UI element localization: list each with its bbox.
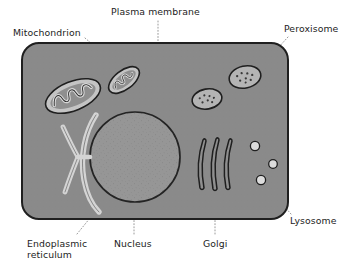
label-lysosome: Lysosome [290, 216, 336, 227]
lysosome-upper [250, 141, 259, 150]
label-endoplasmic-reticulum: Endoplasmic reticulum [27, 239, 87, 261]
label-peroxisome: Peroxisome [284, 24, 338, 35]
cell-diagram-figure: Mitochondrion Plasma membrane Peroxisome… [0, 0, 354, 278]
lysosome-lower [256, 175, 265, 184]
cell-diagram-canvas [0, 0, 354, 278]
label-nucleus: Nucleus [114, 239, 152, 250]
nuclear-envelope [90, 112, 180, 202]
label-mitochondrion: Mitochondrion [13, 28, 81, 39]
label-plasma-membrane: Plasma membrane [111, 7, 200, 18]
lysosome-right [269, 160, 278, 169]
nucleus [90, 112, 180, 202]
label-golgi: Golgi [203, 239, 227, 250]
